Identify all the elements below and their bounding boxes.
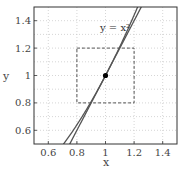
chart: 0.60.811.21.40.60.811.21.4 x y y = x²: [0, 0, 188, 178]
y-tick-label: 1.4: [15, 15, 31, 26]
y-axis-label: y: [2, 70, 10, 83]
x-axis-label: x: [103, 156, 110, 169]
curve-annotation: y = x²: [99, 22, 130, 33]
y-tick-label: 1: [25, 70, 31, 81]
x-tick-label: 1.2: [126, 147, 142, 158]
x-tick-label: 0.6: [40, 147, 56, 158]
tick-labels: 0.60.811.21.40.60.811.21.4: [15, 15, 171, 158]
tangent-point: [103, 73, 108, 78]
y-tick-label: 0.6: [15, 125, 31, 136]
x-tick-label: 0.8: [69, 147, 85, 158]
y-tick-label: 0.8: [15, 97, 31, 108]
y-tick-label: 1.2: [15, 43, 31, 54]
x-tick-label: 1.4: [155, 147, 171, 158]
